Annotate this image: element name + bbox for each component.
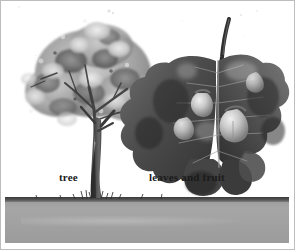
illustration-canvas: tree leaves and fruit [1,1,294,249]
illustration-artwork [1,1,295,250]
label-leaves-and-fruit: leaves and fruit [149,172,225,183]
leaf-cluster [120,19,289,196]
tree-trunk [81,107,114,198]
label-tree: tree [59,172,78,183]
leaf-lobe-right-outer [239,151,266,182]
paper-specks [18,6,258,16]
illustration-figure: tree leaves and fruit [0,0,295,250]
